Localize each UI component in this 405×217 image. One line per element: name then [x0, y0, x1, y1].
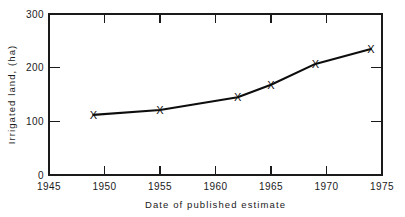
x-axis-title: Date of published estimate — [145, 199, 286, 210]
y-axis-label-300: 300 — [26, 9, 44, 20]
plot-frame — [49, 14, 382, 175]
data-point-marker[interactable]: X — [312, 58, 320, 70]
x-axis-label-1975: 1975 — [370, 181, 394, 192]
data-point-marker[interactable]: X — [267, 79, 275, 91]
data-point-marker[interactable]: X — [156, 104, 164, 116]
x-axis-label-1955: 1955 — [148, 181, 172, 192]
data-point-marker[interactable]: X — [234, 91, 242, 103]
y-axis-title: Irrigated land, (ha) — [6, 45, 17, 145]
x-axis-label-1945: 1945 — [37, 181, 61, 192]
data-point-marker[interactable]: X — [90, 109, 98, 121]
y-axis-label-100: 100 — [26, 116, 44, 127]
y-axis-label-0: 0 — [38, 170, 44, 181]
x-axis-label-1960: 1960 — [204, 181, 228, 192]
x-axis-label-1970: 1970 — [315, 181, 339, 192]
data-series-line — [93, 49, 371, 115]
line-chart: X X X X X X 300 200 100 0 1945 1950 1955… — [0, 0, 405, 217]
x-axis-label-1965: 1965 — [259, 181, 283, 192]
y-axis-label-200: 200 — [26, 62, 44, 73]
x-axis-label-1950: 1950 — [93, 181, 117, 192]
chart-container: X X X X X X 300 200 100 0 1945 1950 1955… — [0, 0, 405, 217]
data-point-marker[interactable]: X — [367, 43, 375, 55]
